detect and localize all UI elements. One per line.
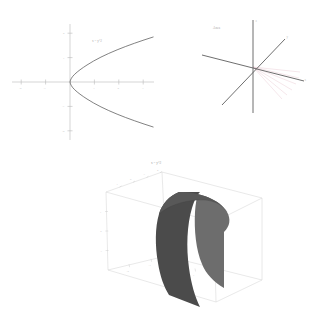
y-tick-label: 1 (193, 274, 195, 277)
x-tick-label: 2 (100, 230, 102, 233)
x-tick-label: 1 (100, 211, 102, 214)
notebook-output-page: -2 -1 1 2 3 2 1 -1 -2 x = y^ (0, 0, 313, 317)
parabola-equation-label: x = y^2 (92, 39, 102, 43)
3d-axes-plot: z y x Axes (196, 12, 308, 122)
axes-plot-title: Axes (213, 26, 221, 30)
z-tick-label: 3 (144, 173, 146, 176)
2d-parabola-plot: -2 -1 1 2 3 2 1 -1 -2 x = y^ (8, 18, 158, 146)
top-edge-tick-labels: 1 2 3 4 (117, 169, 160, 186)
cylinder-plot-title: x = y^2 (151, 161, 162, 165)
y-axis-line (222, 39, 285, 105)
z-axis-label: z (256, 19, 258, 23)
y-tick-label: 1 (63, 56, 65, 60)
axis-labels: z y x (256, 19, 307, 83)
y-tick-label: -2 (62, 129, 65, 133)
y-tick-label: -1 (62, 104, 65, 108)
grid-fan-decoration (253, 67, 300, 99)
y-tick-label: 2 (63, 31, 65, 35)
3d-parabolic-cylinder-plot: 1 2 3 4 1 2 3 (96, 156, 271, 312)
y-tick-label: -2 (127, 270, 130, 273)
y-tick-label: -1 (149, 264, 152, 267)
z-tick-label: 1 (117, 183, 119, 186)
x-axis-tick-labels: -2 -1 1 2 3 (19, 86, 144, 90)
left-edge-tick-labels: 1 2 3 (100, 211, 103, 253)
x-tick-label: 3 (142, 86, 144, 90)
x-tick-label: 1 (93, 86, 95, 90)
z-tick-label: 2 (130, 178, 132, 181)
parabolic-cylinder-surface (156, 192, 230, 307)
y-axis-label: y (287, 35, 289, 39)
x-tick-label: -2 (19, 86, 22, 90)
x-axis-label: x (305, 78, 307, 82)
x-tick-label: 2 (118, 86, 120, 90)
x-tick-label: -1 (43, 86, 46, 90)
z-tick-label: 4 (157, 169, 159, 172)
x-tick-label: 3 (101, 250, 103, 253)
